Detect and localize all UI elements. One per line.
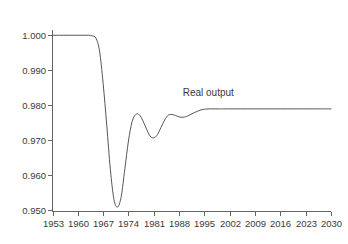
x-tick-label: 2030 <box>321 218 342 229</box>
x-tick-label: 1967 <box>93 218 114 229</box>
x-tick-label: 1995 <box>194 218 215 229</box>
y-tick-label: 0.980 <box>22 100 46 111</box>
x-tick-label: 2023 <box>296 218 317 229</box>
x-axis-labels: 1953196019671974198119881995200220092016… <box>43 218 342 229</box>
y-axis-labels: 0.9500.9600.9700.9800.9901.000 <box>22 30 46 216</box>
x-tick-label: 2002 <box>220 218 241 229</box>
x-tick-label: 1981 <box>144 218 165 229</box>
y-tick-label: 0.990 <box>22 65 46 76</box>
series-label-real-output: Real output <box>183 87 234 98</box>
x-tick-label: 1953 <box>43 218 64 229</box>
y-tick-label: 0.960 <box>22 170 46 181</box>
x-tick-label: 1974 <box>118 218 139 229</box>
x-tick-label: 2009 <box>245 218 266 229</box>
y-tick-label: 1.000 <box>22 30 46 41</box>
chart-figure: 0.9500.9600.9700.9800.9901.000 195319601… <box>0 0 348 244</box>
x-tick-label: 2016 <box>270 218 291 229</box>
line-chart: 0.9500.9600.9700.9800.9901.000 195319601… <box>0 0 348 244</box>
x-tick-label: 1960 <box>68 218 89 229</box>
chart-annotations: Real output <box>183 87 234 98</box>
y-axis-tick-marks <box>48 36 53 211</box>
data-series-real-output <box>53 35 332 207</box>
y-tick-label: 0.970 <box>22 135 46 146</box>
x-tick-label: 1988 <box>169 218 190 229</box>
y-tick-label: 0.950 <box>22 205 46 216</box>
x-axis-tick-marks <box>54 212 332 216</box>
